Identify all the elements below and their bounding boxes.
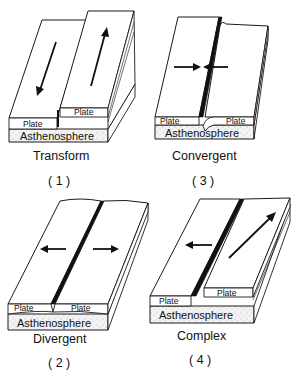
left-plate-label: Plate: [159, 296, 179, 306]
panel-complex: Plate Plate Asthenosphere Complex ( 4 ): [150, 198, 290, 367]
panel-number: ( 3 ): [192, 174, 214, 188]
panel-caption: Divergent: [33, 332, 87, 346]
panel-divergent: Plate Plate Asthenosphere Divergent ( 2 …: [8, 199, 148, 370]
left-plate-label: Plate: [23, 119, 43, 129]
panel-transform: Plate Plate Asthenosphere Transform ( 1 …: [9, 11, 135, 188]
asthenosphere-label: Asthenosphere: [165, 127, 239, 139]
panel-caption: Complex: [177, 329, 227, 343]
right-plate-label: Plate: [217, 288, 237, 298]
left-plate-label: Plate: [14, 303, 34, 313]
panel-number: ( 4 ): [189, 353, 211, 367]
right-plate-label: Plate: [71, 303, 91, 313]
panel-caption: Convergent: [172, 149, 237, 163]
plate-boundaries-diagram: Plate Plate Asthenosphere Transform ( 1 …: [0, 0, 297, 370]
panel-number: ( 2 ): [48, 356, 70, 370]
asthenosphere-label: Asthenosphere: [17, 317, 91, 329]
asthenosphere-label: Asthenosphere: [159, 309, 233, 321]
panel-caption: Transform: [33, 149, 90, 163]
panel-convergent: Plate Plate Asthenosphere Convergent ( 3…: [155, 17, 268, 188]
left-plate-label: Plate: [160, 116, 180, 126]
right-plate-label: Plate: [226, 116, 246, 126]
right-plate-label: Plate: [74, 107, 94, 117]
panel-number: ( 1 ): [48, 174, 70, 188]
asthenosphere-label: Asthenosphere: [20, 130, 94, 142]
